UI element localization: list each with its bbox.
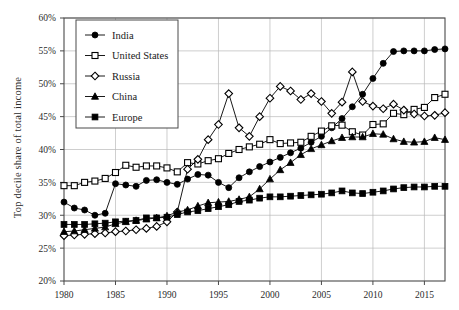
data-point-marker: [298, 193, 304, 199]
data-point-marker: [226, 185, 232, 191]
legend-label: India: [112, 30, 134, 41]
data-point-marker: [71, 205, 77, 211]
data-point-marker: [431, 134, 438, 140]
data-point-marker: [267, 194, 273, 200]
data-point-marker: [82, 207, 88, 213]
data-point-marker: [431, 112, 439, 120]
data-point-marker: [236, 175, 242, 181]
data-point-marker: [401, 48, 407, 54]
data-point-marker: [132, 226, 140, 234]
data-point-marker: [112, 228, 120, 236]
x-tick-label: 1985: [106, 290, 125, 300]
data-point-marker: [401, 185, 407, 191]
y-tick-label: 60%: [39, 13, 57, 23]
data-point-marker: [164, 165, 170, 171]
data-point-marker: [185, 209, 191, 215]
data-point-marker: [82, 222, 88, 228]
data-point-marker: [339, 116, 345, 122]
data-point-marker: [215, 179, 221, 185]
data-point-marker: [329, 190, 335, 196]
legend-label: China: [112, 91, 137, 102]
data-point-marker: [442, 183, 448, 189]
data-point-marker: [308, 192, 314, 198]
data-point-marker: [236, 147, 242, 153]
data-point-marker: [133, 164, 139, 170]
data-point-marker: [441, 109, 449, 117]
data-point-marker: [369, 130, 376, 136]
data-point-marker: [411, 48, 417, 54]
data-point-marker: [370, 122, 376, 128]
data-point-marker: [380, 60, 386, 66]
data-point-marker: [101, 229, 109, 237]
data-point-marker: [391, 186, 397, 192]
y-tick-label: 35%: [39, 178, 57, 188]
data-point-marker: [390, 100, 398, 108]
data-point-marker: [102, 220, 108, 226]
data-point-marker: [216, 204, 222, 210]
data-point-marker: [277, 194, 283, 200]
data-point-marker: [204, 136, 212, 144]
data-point-marker: [246, 169, 252, 175]
data-point-marker: [123, 182, 129, 188]
data-point-marker: [421, 48, 427, 54]
data-point-marker: [288, 150, 294, 156]
legend-label: United States: [112, 50, 168, 61]
data-point-marker: [277, 154, 283, 160]
data-point-marker: [92, 53, 98, 59]
chart-container: Top decile share of total income 20%25%3…: [0, 0, 459, 310]
data-point-marker: [143, 163, 149, 169]
data-point-marker: [226, 202, 232, 208]
data-point-marker: [370, 189, 376, 195]
data-point-marker: [432, 47, 438, 53]
data-point-marker: [143, 177, 149, 183]
data-point-marker: [92, 114, 98, 120]
data-point-marker: [339, 122, 345, 128]
data-point-marker: [92, 178, 98, 184]
data-point-marker: [123, 218, 129, 224]
data-point-marker: [215, 121, 223, 129]
x-tick-label: 2005: [312, 290, 331, 300]
data-point-marker: [122, 227, 130, 235]
data-point-marker: [370, 75, 376, 81]
data-point-marker: [298, 139, 304, 145]
data-point-marker: [277, 141, 283, 147]
data-point-marker: [61, 183, 67, 189]
legend-label: Russia: [112, 71, 140, 82]
data-point-marker: [164, 179, 170, 185]
data-point-marker: [61, 199, 67, 205]
data-point-marker: [391, 49, 397, 55]
data-point-marker: [379, 105, 387, 113]
data-point-marker: [256, 113, 264, 121]
x-tick-label: 2000: [260, 290, 279, 300]
data-point-marker: [257, 141, 263, 147]
data-point-marker: [143, 225, 151, 233]
data-point-marker: [432, 95, 438, 101]
data-point-marker: [287, 159, 294, 165]
y-tick-label: 50%: [39, 79, 57, 89]
data-point-marker: [102, 175, 108, 181]
data-point-marker: [391, 110, 397, 116]
data-point-marker: [257, 195, 263, 201]
data-point-marker: [174, 212, 180, 218]
data-point-marker: [112, 181, 118, 187]
data-point-marker: [349, 68, 357, 76]
data-point-marker: [360, 191, 366, 197]
x-tick-label: 1990: [157, 290, 176, 300]
data-point-marker: [92, 212, 98, 218]
data-point-marker: [432, 183, 438, 189]
legend-label: Europe: [112, 112, 143, 123]
data-point-marker: [225, 90, 233, 98]
data-point-marker: [92, 221, 98, 227]
data-point-marker: [133, 218, 139, 224]
data-point-marker: [288, 140, 294, 146]
data-point-marker: [442, 91, 448, 97]
data-point-marker: [92, 32, 98, 38]
data-point-marker: [164, 214, 170, 220]
data-point-marker: [205, 158, 211, 164]
data-point-marker: [349, 104, 355, 110]
data-point-marker: [267, 137, 273, 143]
data-point-marker: [288, 193, 294, 199]
data-point-marker: [277, 166, 284, 172]
data-point-marker: [329, 123, 335, 129]
line-chart-plot: 20%25%30%35%40%45%50%55%60% 198019851990…: [0, 0, 459, 310]
